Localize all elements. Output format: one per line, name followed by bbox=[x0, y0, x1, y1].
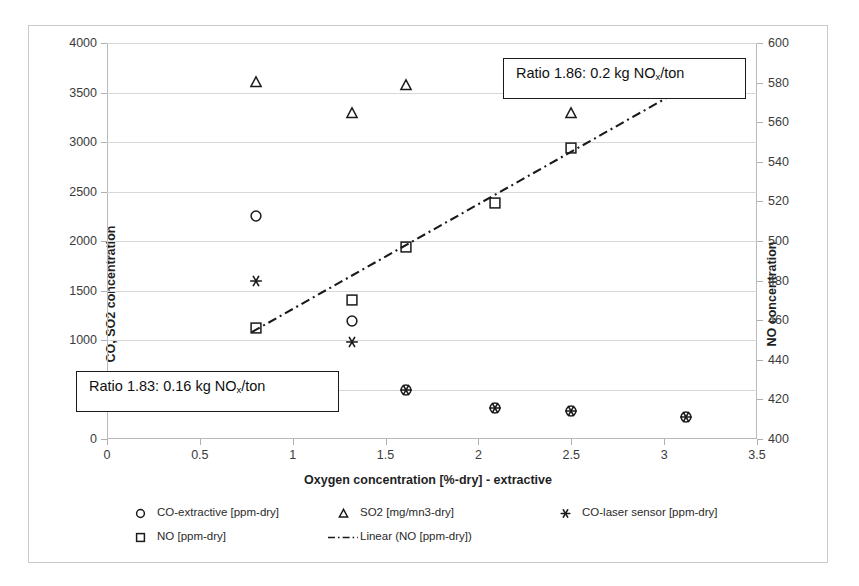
legend-item-label: Linear (NO [ppm-dry]) bbox=[360, 531, 472, 543]
y-axis-tick-label-right: 400 bbox=[768, 432, 789, 446]
x-axis-tick-label: 1 bbox=[289, 448, 296, 462]
data-point-asterisk bbox=[680, 410, 693, 423]
y-axis-tick-label-left: 2000 bbox=[69, 234, 97, 248]
x-axis-tick-label: 3 bbox=[661, 448, 668, 462]
y-axis-title-right: NO concentration bbox=[766, 242, 780, 347]
legend-square-icon bbox=[132, 530, 148, 544]
y-axis-tick-right bbox=[757, 162, 763, 163]
y-axis-tick-right bbox=[757, 360, 763, 361]
x-axis-tick bbox=[664, 439, 665, 445]
chart-legend: CO-extractive [ppm-dry]SO2 [mg/mn3-dry]C… bbox=[107, 502, 757, 554]
legend-item[interactable]: SO2 [mg/mn3-dry] bbox=[335, 506, 454, 520]
data-point-triangle bbox=[565, 107, 578, 120]
y-axis-tick-right bbox=[757, 83, 763, 84]
data-point-triangle bbox=[400, 79, 413, 92]
x-axis-tick-label: 3.5 bbox=[748, 448, 765, 462]
y-axis-tick-right bbox=[757, 241, 763, 242]
y-axis-tick-label-right: 540 bbox=[768, 155, 789, 169]
x-axis-tick-label: 0.5 bbox=[191, 448, 208, 462]
y-axis-tick-label-left: 1000 bbox=[69, 333, 97, 347]
legend-item-label: CO-extractive [ppm-dry] bbox=[157, 507, 279, 519]
y-axis-tick-right bbox=[757, 122, 763, 123]
x-axis-tick-label: 2 bbox=[475, 448, 482, 462]
y-axis-tick-label-right: 440 bbox=[768, 353, 789, 367]
annotation-ratio-high: Ratio 1.86: 0.2 kg NOx/ton bbox=[503, 58, 746, 99]
chart-figure: CO, SO2 concentration NO concentration O… bbox=[28, 25, 828, 563]
data-point-circle bbox=[346, 314, 359, 327]
y-axis-tick-label-right: 500 bbox=[768, 234, 789, 248]
data-point-square bbox=[249, 322, 262, 335]
data-point-asterisk bbox=[346, 335, 359, 348]
legend-item[interactable]: Linear (NO [ppm-dry]) bbox=[335, 530, 472, 544]
data-point-triangle bbox=[249, 75, 262, 88]
legend-item-label: SO2 [mg/mn3-dry] bbox=[360, 507, 454, 519]
y-axis-tick-label-left: 0 bbox=[90, 432, 97, 446]
legend-asterisk-icon bbox=[557, 506, 573, 520]
x-axis-tick-label: 1.5 bbox=[377, 448, 394, 462]
legend-dash-dot-line-icon bbox=[335, 530, 351, 544]
x-axis-tick bbox=[200, 439, 201, 445]
y-axis-tick-right bbox=[757, 281, 763, 282]
annotation-ratio-low: Ratio 1.83: 0.16 kg NOx/ton bbox=[76, 371, 339, 412]
y-axis-tick-label-left: 3000 bbox=[69, 135, 97, 149]
y-axis-tick-label-left: 4000 bbox=[69, 36, 97, 50]
x-axis-tick bbox=[571, 439, 572, 445]
y-axis-tick-label-right: 460 bbox=[768, 313, 789, 327]
data-point-square bbox=[346, 294, 359, 307]
y-axis-tick-label-right: 600 bbox=[768, 36, 789, 50]
data-point-square bbox=[565, 141, 578, 154]
data-point-square bbox=[489, 197, 502, 210]
y-axis-tick-label-left: 1500 bbox=[69, 284, 97, 298]
y-axis-tick-label-left: 2500 bbox=[69, 185, 97, 199]
y-axis-tick-label-right: 580 bbox=[768, 76, 789, 90]
y-axis-tick-right bbox=[757, 201, 763, 202]
data-point-triangle bbox=[346, 107, 359, 120]
x-axis-tick-label: 2.5 bbox=[563, 448, 580, 462]
y-axis-tick-label-right: 420 bbox=[768, 392, 789, 406]
y-axis-tick-label-right: 560 bbox=[768, 115, 789, 129]
data-point-asterisk bbox=[249, 274, 262, 287]
data-point-circle bbox=[249, 210, 262, 223]
x-axis-tick-label: 0 bbox=[104, 448, 111, 462]
x-axis-title: Oxygen concentration [%-dry] - extractiv… bbox=[29, 473, 827, 487]
y-axis-tick-label-right: 480 bbox=[768, 274, 789, 288]
legend-item[interactable]: CO-laser sensor [ppm-dry] bbox=[557, 506, 717, 520]
data-point-asterisk bbox=[565, 404, 578, 417]
y-axis-tick-right bbox=[757, 320, 763, 321]
data-point-square bbox=[400, 240, 413, 253]
data-point-asterisk bbox=[400, 383, 413, 396]
legend-item[interactable]: NO [ppm-dry] bbox=[132, 530, 226, 544]
x-axis-tick bbox=[757, 439, 758, 445]
data-point-asterisk bbox=[489, 402, 502, 415]
y-axis-tick-label-right: 520 bbox=[768, 194, 789, 208]
legend-triangle-icon bbox=[335, 506, 351, 520]
y-axis-tick-right bbox=[757, 43, 763, 44]
legend-item-label: CO-laser sensor [ppm-dry] bbox=[582, 507, 717, 519]
x-axis-tick bbox=[107, 439, 108, 445]
y-axis-tick-label-left: 3500 bbox=[69, 86, 97, 100]
legend-item[interactable]: CO-extractive [ppm-dry] bbox=[132, 506, 279, 520]
x-axis-tick bbox=[478, 439, 479, 445]
legend-item-label: NO [ppm-dry] bbox=[157, 531, 226, 543]
x-axis-tick bbox=[386, 439, 387, 445]
legend-circle-icon bbox=[132, 506, 148, 520]
x-axis-tick bbox=[293, 439, 294, 445]
y-axis-tick-right bbox=[757, 399, 763, 400]
